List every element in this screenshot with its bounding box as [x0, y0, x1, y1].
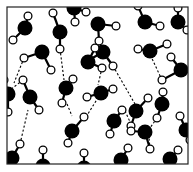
hydrogen-atom [35, 106, 43, 114]
oxygen-atom [138, 125, 153, 140]
hydrogen-atom [118, 106, 126, 114]
hydrogen-atom [163, 40, 171, 48]
hydrogen-atom [106, 130, 114, 138]
oxygen-atom [129, 104, 144, 119]
hydrogen-atom [83, 93, 91, 101]
oxygen-atom [174, 63, 189, 78]
hydrogen-atom [91, 44, 99, 52]
hydrogen-atom [156, 22, 164, 30]
hydrogen-atom [19, 76, 27, 84]
hydrogen-atom [124, 144, 132, 152]
hydrogen-atom [159, 88, 167, 96]
oxygen-atom [155, 97, 170, 112]
hydrogen-atom [174, 146, 182, 154]
oxygen-atom [65, 124, 80, 139]
hydrogen-atom [112, 22, 120, 30]
oxygen-atom [35, 45, 50, 60]
hydrogen-atom [16, 140, 24, 148]
hydrogen-atom [98, 64, 106, 72]
hydrogen-atom [20, 54, 28, 62]
hydrogen-atom [24, 12, 32, 20]
oxygen-atom [138, 15, 153, 30]
hydrogen-atom [80, 149, 88, 157]
oxygen-atom [107, 114, 122, 129]
hydrogen-atom [64, 139, 72, 147]
hydrogen-atom [58, 99, 66, 107]
oxygen-atom [94, 86, 109, 101]
oxygen-atom [81, 55, 96, 70]
oxygen-atom [143, 44, 158, 59]
hydrogen-atom [176, 112, 184, 120]
hydrogen-atom [56, 45, 64, 53]
hydrogen-atom [49, 9, 57, 17]
hydrogen-atom [39, 146, 47, 154]
hydrogen-atom [153, 114, 161, 122]
hydrogen-atom [9, 36, 17, 44]
oxygen-atom [53, 25, 68, 40]
hydrogen-atom [82, 8, 90, 16]
hydrogen-atom [80, 113, 88, 121]
hydrogen-atom [69, 75, 77, 83]
hydrogen-atom [47, 66, 55, 74]
hydrogen-atom [127, 127, 135, 135]
hydrogen-atom [167, 53, 175, 61]
hydrogen-atom [109, 85, 117, 93]
oxygen-atom [171, 15, 186, 30]
oxygen-atom [23, 90, 38, 105]
hydrogen-atom [134, 45, 142, 53]
hydrogen-atom [71, 18, 79, 26]
hydrogen-atom [158, 76, 166, 84]
oxygen-atom [18, 21, 33, 36]
hydrogen-atom [146, 145, 154, 153]
water-molecule-diagram [0, 0, 193, 172]
oxygen-atom [91, 17, 106, 32]
hydrogen-atom [144, 94, 152, 102]
hydrogen-atom [109, 62, 117, 70]
